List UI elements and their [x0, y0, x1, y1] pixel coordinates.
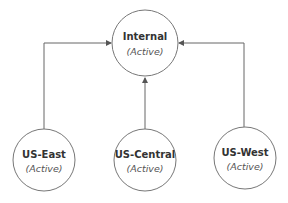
node-circle: [13, 129, 75, 191]
node-status: (Active): [127, 46, 164, 57]
node-title: Internal: [123, 31, 168, 42]
node-title: US-East: [22, 149, 66, 160]
edge-us-east-to-internal: [44, 43, 111, 129]
edge-us-west-to-internal: [179, 43, 244, 127]
node-title: US-Central: [115, 149, 176, 160]
node-us-west[interactable]: US-West (Active): [214, 127, 276, 189]
replication-diagram: Internal (Active) US-East (Active) US-Ce…: [0, 0, 288, 203]
node-title: US-West: [221, 147, 268, 158]
node-status: (Active): [127, 163, 164, 174]
node-us-east[interactable]: US-East (Active): [13, 129, 75, 191]
node-circle: [214, 127, 276, 189]
node-us-central[interactable]: US-Central (Active): [114, 129, 176, 191]
node-status: (Active): [227, 161, 264, 172]
node-internal[interactable]: Internal (Active): [112, 10, 178, 76]
node-status: (Active): [26, 163, 63, 174]
node-circle: [112, 10, 178, 76]
node-circle: [114, 129, 176, 191]
